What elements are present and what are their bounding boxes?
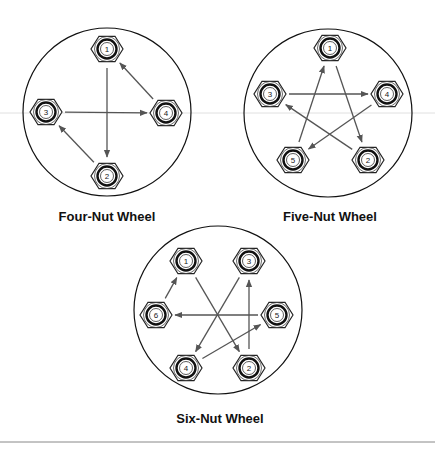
- arrow-1-to-2: [336, 66, 362, 142]
- nut-number: 5: [275, 311, 280, 320]
- arrow-3-to-4: [65, 112, 147, 113]
- lug-nut-1: 1: [91, 36, 123, 61]
- nut-number: 2: [247, 364, 252, 373]
- sequence-arrows: [59, 63, 153, 162]
- nut-number: 2: [105, 172, 110, 181]
- sequence-arrows: [286, 66, 372, 149]
- four-nut-wheel-label: Four-Nut Wheel: [47, 209, 167, 224]
- nut-number: 1: [184, 257, 189, 266]
- lug-nut-2: 2: [352, 147, 384, 172]
- nut-number: 1: [105, 45, 110, 54]
- lug-nut-5: 5: [261, 302, 293, 327]
- lug-nut-3: 3: [254, 81, 286, 106]
- lug-nut-4: 4: [170, 355, 202, 380]
- sequence-arrows: [165, 277, 260, 358]
- lug-nut-3: 3: [30, 99, 62, 124]
- six-nut-wheel: 123456: [134, 226, 302, 394]
- lug-nut-4: 4: [150, 100, 182, 125]
- arrow-6-to-1: [165, 278, 177, 299]
- nut-number: 2: [366, 156, 371, 165]
- nut-number: 4: [184, 364, 189, 373]
- lug-nut-1: 1: [314, 35, 346, 60]
- nut-number: 3: [268, 90, 273, 99]
- nut-number: 1: [328, 44, 333, 53]
- nut-number: 6: [154, 311, 159, 320]
- arrow-2-to-3: [59, 126, 94, 162]
- lug-nut-4: 4: [371, 81, 403, 106]
- nut-number: 4: [164, 109, 169, 118]
- nut-number: 3: [247, 257, 252, 266]
- lug-nut-2: 2: [233, 355, 265, 380]
- nut-number: 5: [291, 156, 296, 165]
- arrow-2-to-3: [286, 105, 352, 150]
- five-nut-wheel-label: Five-Nut Wheel: [270, 209, 390, 224]
- lug-nut-tightening-diagram: 123412345123456: [0, 0, 435, 449]
- nut-number: 3: [44, 108, 49, 117]
- lug-nut-3: 3: [233, 248, 265, 273]
- lug-nut-5: 5: [277, 147, 309, 172]
- arrow-5-to-1: [299, 66, 324, 142]
- four-nut-wheel: 1234: [23, 28, 191, 196]
- six-nut-wheel-label: Six-Nut Wheel: [160, 411, 280, 426]
- lug-nut-1: 1: [170, 248, 202, 273]
- lug-nut-2: 2: [91, 163, 123, 188]
- nut-number: 4: [385, 90, 390, 99]
- arrow-4-to-1: [120, 63, 153, 99]
- arrow-4-to-5: [202, 325, 260, 359]
- lug-nut-6: 6: [140, 302, 172, 327]
